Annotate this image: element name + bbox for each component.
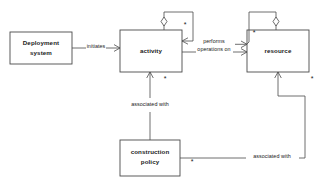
relationship-label-performs-line1: performs [203, 38, 225, 44]
entity-activity[interactable]: activity [120, 30, 182, 72]
diagram-canvas: Deployment system activity resource cons… [0, 0, 328, 189]
multiplicity-activity-bottom: * [164, 75, 167, 82]
entity-resource[interactable]: resource [247, 30, 309, 72]
entity-label-construction-policy-line1: construction [131, 148, 170, 155]
resource-aggregation-diamond [273, 17, 279, 26]
relationship-policy-associated-with-resource[interactable]: associated with * * [180, 72, 314, 165]
relationship-label-performs-line2: operations on [197, 46, 230, 52]
entity-label-resource-line1: resource [265, 47, 292, 54]
entity-label-activity-line1: activity [140, 47, 163, 54]
relationship-label-associated-with-activity: associated with [131, 101, 169, 107]
uml-class-diagram: Deployment system activity resource cons… [0, 0, 328, 189]
multiplicity-policy-right: * [191, 158, 194, 165]
entity-construction-policy[interactable]: construction policy [120, 140, 180, 176]
multiplicity-resource-bottom: * [311, 75, 314, 82]
multiplicity-resource-loop: * [253, 29, 256, 36]
relationship-initiates[interactable]: initiates [72, 43, 120, 51]
relationship-label-associated-with-resource: associated with [253, 153, 291, 159]
relationship-label-initiates: initiates [87, 43, 106, 49]
relationship-policy-associated-with-activity[interactable]: associated with * [131, 72, 169, 140]
activity-aggregation-diamond [161, 17, 167, 26]
entity-label-deployment-system-line2: system [30, 49, 52, 56]
entity-deployment-system[interactable]: Deployment system [10, 32, 72, 64]
entity-label-construction-policy-line2: policy [141, 158, 160, 165]
entity-label-deployment-system-line1: Deployment [23, 39, 59, 46]
multiplicity-activity-loop: * [184, 21, 187, 28]
